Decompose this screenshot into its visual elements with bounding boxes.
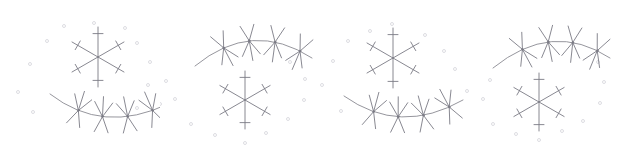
arc-branch-out-2-1 <box>390 102 398 117</box>
arc-branch-in-3-1 <box>423 115 433 129</box>
speck-marker <box>190 123 193 126</box>
speck-marker <box>489 79 492 82</box>
arc-branch-out-2-3 <box>102 103 112 117</box>
speck-marker <box>63 25 66 28</box>
branching-arc <box>493 25 610 69</box>
arc-branch-out-2-2 <box>102 97 103 117</box>
star-spoke-2 <box>98 42 124 57</box>
star-spoke-5 <box>72 57 98 72</box>
speck-marker <box>466 90 469 93</box>
arc-branch-in-2-1 <box>539 28 548 42</box>
arc-branch-in-4-1 <box>153 110 160 122</box>
arc-branch-in-3-1 <box>568 26 573 42</box>
star-spoke-barb-3 <box>411 65 416 74</box>
speck-marker <box>136 107 139 110</box>
star-spoke-barb-2 <box>262 84 267 93</box>
speck-marker <box>561 130 564 133</box>
star-spoke-3 <box>539 102 564 117</box>
arc-branch-in-1-2 <box>522 32 523 49</box>
speck-marker <box>149 61 152 64</box>
arc-branch-in-3-2 <box>275 28 285 42</box>
star-spoke-barb-6 <box>370 42 375 51</box>
arc-branch-out-4-1 <box>597 51 599 68</box>
arc-branch-in-1-1 <box>509 38 522 49</box>
speck-marker <box>454 68 457 71</box>
speck-marker <box>582 120 585 123</box>
arc-branch-out-3-2 <box>124 97 128 117</box>
arc-branch-in-1-1 <box>78 110 79 127</box>
speck-marker <box>321 84 324 87</box>
speck-marker <box>265 132 268 135</box>
speck-marker <box>303 99 306 102</box>
speck-marker <box>492 123 495 126</box>
arc-branch-in-3-2 <box>573 28 582 42</box>
figure-root <box>0 0 639 163</box>
speck-marker <box>369 30 372 33</box>
speck-cloud <box>160 61 307 145</box>
arc-branch-out-1-1 <box>369 95 373 111</box>
arc-branch-in-2-1 <box>240 26 249 40</box>
speck-marker <box>174 98 177 101</box>
speck-marker <box>482 98 485 101</box>
arc-branch-in-2-1 <box>398 117 404 133</box>
arc-branch-in-4-2 <box>449 107 450 124</box>
arc-branch-out-2-2 <box>548 42 552 62</box>
arc-branch-out-1-3 <box>222 48 224 65</box>
star-spoke-barb-3 <box>116 64 121 73</box>
branching-arc <box>195 24 313 69</box>
star-spoke-5 <box>220 100 245 115</box>
star-spoke-barb-2 <box>556 86 561 95</box>
speck-marker <box>424 34 427 37</box>
speck-marker <box>347 40 350 43</box>
speck-marker <box>165 80 168 83</box>
star-spoke-barb-5 <box>75 64 80 73</box>
star-spoke-barb-2 <box>116 41 121 50</box>
speck-marker <box>93 22 96 25</box>
speck-marker <box>289 61 292 64</box>
speck-marker <box>214 134 217 137</box>
six-spoke-star <box>220 71 270 129</box>
speck-marker <box>304 78 307 81</box>
arc-branch-in-1-2 <box>223 31 224 48</box>
arc-branch-out-3-1 <box>573 42 580 58</box>
star-spoke-6 <box>514 88 539 103</box>
star-spoke-6 <box>220 86 245 101</box>
crystal-panel-1 <box>0 0 160 163</box>
arc-branch-in-3-1 <box>128 116 137 130</box>
star-spoke-6 <box>367 43 393 58</box>
six-spoke-star <box>514 73 564 131</box>
speck-marker <box>46 40 49 43</box>
panel-canvas <box>160 0 320 163</box>
star-spoke-barb-6 <box>75 41 80 50</box>
star-spoke-barb-5 <box>370 65 375 74</box>
branching-arc <box>50 91 160 133</box>
speck-marker <box>599 102 602 105</box>
arc-spine <box>195 40 312 66</box>
star-spoke-5 <box>367 58 393 73</box>
arc-branch-in-3-2 <box>420 115 423 132</box>
speck-marker <box>340 110 343 113</box>
arc-branch-in-3-1 <box>271 26 275 43</box>
speck-cloud <box>482 61 606 142</box>
speck-marker <box>244 142 247 145</box>
arc-branch-out-4-3 <box>153 94 156 111</box>
speck-marker <box>603 81 606 84</box>
crystal-panel-4 <box>480 0 639 163</box>
speck-marker <box>287 118 290 121</box>
arc-branch-in-1-1 <box>211 37 224 48</box>
star-spoke-3 <box>245 100 270 115</box>
star-spoke-5 <box>514 102 539 117</box>
arc-branch-out-3-2 <box>571 42 573 62</box>
arc-branch-in-4-2 <box>597 39 610 50</box>
speck-marker <box>32 111 35 114</box>
six-spoke-star <box>72 27 124 87</box>
arc-branch-out-4-1 <box>300 51 302 68</box>
speck-marker <box>391 23 394 26</box>
crystal-panel-3 <box>320 0 480 163</box>
star-spoke-2 <box>245 86 270 101</box>
speck-marker <box>147 84 150 87</box>
arc-branch-out-1-3 <box>521 49 523 66</box>
arc-branch-out-3-3 <box>423 99 429 115</box>
arc-branch-out-2-3 <box>242 41 249 57</box>
star-spoke-2 <box>539 88 564 103</box>
